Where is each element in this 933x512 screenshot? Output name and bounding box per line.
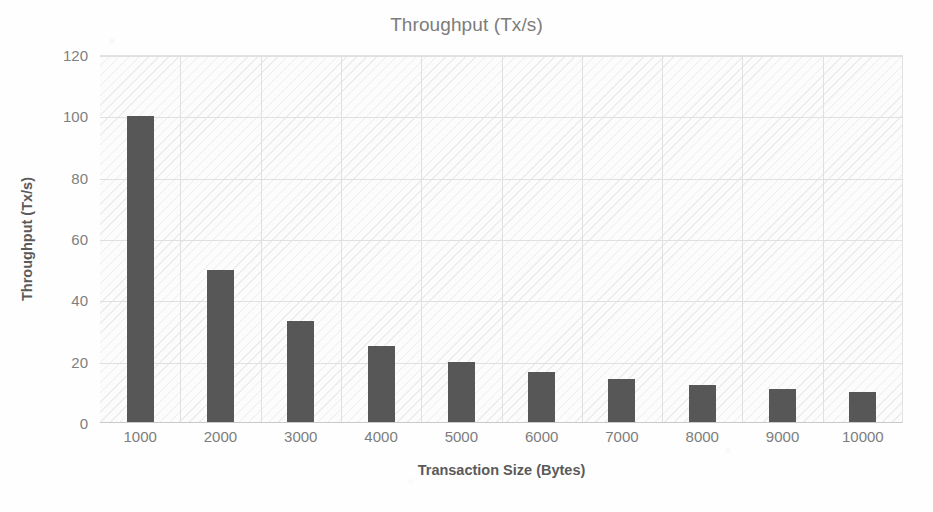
x-tick-label: 5000: [445, 428, 478, 445]
bar: [207, 270, 234, 423]
x-tick-label: 6000: [525, 428, 558, 445]
x-axis-title: Transaction Size (Bytes): [100, 462, 903, 478]
bar: [368, 346, 395, 423]
bar: [287, 321, 314, 423]
bar: [608, 379, 635, 423]
bar: [448, 362, 475, 423]
y-tick-label: 60: [71, 231, 88, 248]
bar: [769, 389, 796, 423]
bar: [528, 372, 555, 423]
x-axis-tick-labels: 1000200030004000500060007000800090001000…: [100, 428, 903, 454]
bar: [689, 385, 716, 423]
x-tick-label: 2000: [204, 428, 237, 445]
chart-title: Throughput (Tx/s): [0, 14, 933, 36]
y-tick-label: 0: [80, 415, 88, 432]
y-tick-label: 40: [71, 292, 88, 309]
y-axis-title: Throughput (Tx/s): [16, 55, 38, 423]
y-tick-label: 100: [63, 108, 88, 125]
chart-figure: Throughput (Tx/s) Throughput (Tx/s) 0204…: [0, 0, 933, 512]
x-tick-label: 3000: [284, 428, 317, 445]
x-tick-label: 1000: [123, 428, 156, 445]
bar: [127, 116, 154, 423]
plot-area: [100, 55, 903, 423]
y-tick-label: 80: [71, 169, 88, 186]
bar: [849, 392, 876, 423]
y-axis-tick-labels: 020406080100120: [44, 55, 94, 423]
x-tick-label: 8000: [686, 428, 719, 445]
x-tick-label: 4000: [364, 428, 397, 445]
x-tick-label: 9000: [766, 428, 799, 445]
x-axis-line: [100, 422, 902, 423]
x-tick-label: 7000: [605, 428, 638, 445]
y-tick-label: 20: [71, 353, 88, 370]
bar-series: [100, 56, 902, 423]
y-tick-label: 120: [63, 47, 88, 64]
x-tick-label: 10000: [842, 428, 884, 445]
